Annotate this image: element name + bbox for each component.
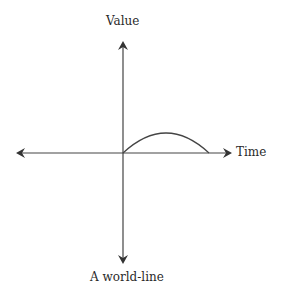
y-axis-label: Value: [106, 14, 139, 28]
x-axis-label: Time: [236, 145, 266, 159]
world-line-curve: [123, 133, 209, 153]
diagram-caption: A world-line: [90, 270, 164, 284]
